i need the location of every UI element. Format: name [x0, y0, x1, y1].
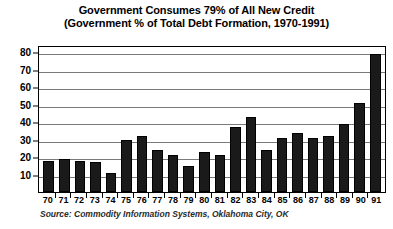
bar-slot	[119, 47, 135, 192]
x-tick-slot: 71	[56, 194, 72, 210]
bar-slot	[88, 47, 104, 192]
x-tick-slot: 74	[103, 194, 119, 210]
bar-86	[292, 133, 303, 193]
x-tick-mark	[195, 193, 196, 198]
bar-slot	[150, 47, 166, 192]
x-tick-slot: 88	[322, 194, 338, 210]
y-tick-label-60: 60	[20, 83, 31, 93]
bar-slot	[259, 47, 275, 192]
x-tick-slot: 89	[337, 194, 353, 210]
x-tick-slot: 81	[212, 194, 228, 210]
x-tick-slot: 73	[87, 194, 103, 210]
x-tick-mark	[321, 193, 322, 198]
bar-78	[168, 155, 179, 192]
y-axis: 1020304050607080	[0, 46, 38, 193]
x-tick-mark	[133, 193, 134, 198]
bar-slot	[336, 47, 352, 192]
x-tick-slot: 70	[40, 194, 56, 210]
x-tick-label-82: 82	[228, 194, 244, 206]
bar-70	[43, 161, 54, 193]
x-tick-mark	[352, 193, 353, 198]
x-tick-label-75: 75	[118, 194, 134, 206]
bar-slot	[321, 47, 337, 192]
x-tick-slot: 77	[149, 194, 165, 210]
bar-89	[339, 124, 350, 192]
bar-80	[199, 152, 210, 192]
x-tick-mark	[258, 193, 259, 198]
x-tick-slot: 80	[196, 194, 212, 210]
x-tick-mark	[148, 193, 149, 198]
bar-slot	[352, 47, 368, 192]
bar-slot	[72, 47, 88, 192]
source-caption: Source: Commodity Information Systems, O…	[40, 209, 289, 219]
bar-87	[308, 138, 319, 192]
x-tick-label-81: 81	[212, 194, 228, 206]
x-tick-label-77: 77	[149, 194, 165, 206]
x-tick-mark	[367, 193, 368, 198]
y-tick-label-50: 50	[20, 101, 31, 111]
bar-slot	[41, 47, 57, 192]
x-tick-label-78: 78	[165, 194, 181, 206]
bar-slot	[103, 47, 119, 192]
bar-75	[121, 140, 132, 193]
x-tick-slot: 78	[165, 194, 181, 210]
x-tick-label-76: 76	[134, 194, 150, 206]
x-tick-mark	[180, 193, 181, 198]
bar-74	[106, 173, 117, 192]
bar-slot	[290, 47, 306, 192]
x-tick-slot: 84	[259, 194, 275, 210]
bar-81	[215, 155, 226, 192]
bar-slot	[305, 47, 321, 192]
x-tick-label-85: 85	[275, 194, 291, 206]
x-tick-label-73: 73	[87, 194, 103, 206]
x-tick-mark	[227, 193, 228, 198]
bar-slot	[196, 47, 212, 192]
bar-77	[152, 150, 163, 192]
chart-title: Government Consumes 79% of All New Credi…	[0, 4, 393, 17]
x-tick-mark	[242, 193, 243, 198]
x-axis: 7071727374757677787980818283848586878889…	[38, 194, 386, 210]
bar-slot	[274, 47, 290, 192]
y-tick-label-20: 20	[20, 153, 31, 163]
x-tick-mark	[305, 193, 306, 198]
bar-73	[90, 162, 101, 192]
x-tick-label-71: 71	[56, 194, 72, 206]
x-tick-mark	[211, 193, 212, 198]
y-tick-label-80: 80	[20, 48, 31, 58]
x-tick-label-86: 86	[290, 194, 306, 206]
plot-wrapper	[38, 46, 386, 193]
x-tick-label-87: 87	[306, 194, 322, 206]
x-tick-label-74: 74	[103, 194, 119, 206]
x-tick-mark	[70, 193, 71, 198]
bar-88	[323, 136, 334, 192]
bar-72	[75, 161, 86, 193]
x-tick-label-72: 72	[71, 194, 87, 206]
x-tick-slot: 83	[243, 194, 259, 210]
x-tick-slot: 91	[368, 194, 384, 210]
x-tick-mark	[86, 193, 87, 198]
x-tick-mark	[102, 193, 103, 198]
x-tick-slot: 86	[290, 194, 306, 210]
bar-71	[59, 159, 70, 192]
bar-85	[277, 138, 288, 192]
y-tick-label-70: 70	[20, 66, 31, 76]
chart-title-block: Government Consumes 79% of All New Credi…	[0, 4, 393, 30]
bar-slot	[367, 47, 383, 192]
chart-subtitle: (Government % of Total Debt Formation, 1…	[0, 17, 393, 30]
x-tick-label-79: 79	[181, 194, 197, 206]
bar-slot	[165, 47, 181, 192]
y-tick-label-30: 30	[20, 136, 31, 146]
x-tick-label-80: 80	[196, 194, 212, 206]
x-tick-slot: 76	[134, 194, 150, 210]
x-tick-label-83: 83	[243, 194, 259, 206]
x-tick-slot: 82	[228, 194, 244, 210]
x-tick-label-89: 89	[337, 194, 353, 206]
x-tick-slot: 72	[71, 194, 87, 210]
bar-slot	[228, 47, 244, 192]
y-tick-label-40: 40	[20, 118, 31, 128]
bar-slot	[243, 47, 259, 192]
bar-91	[370, 54, 381, 192]
x-tick-slot: 87	[306, 194, 322, 210]
x-tick-label-91: 91	[368, 194, 384, 206]
bar-79	[183, 166, 194, 192]
